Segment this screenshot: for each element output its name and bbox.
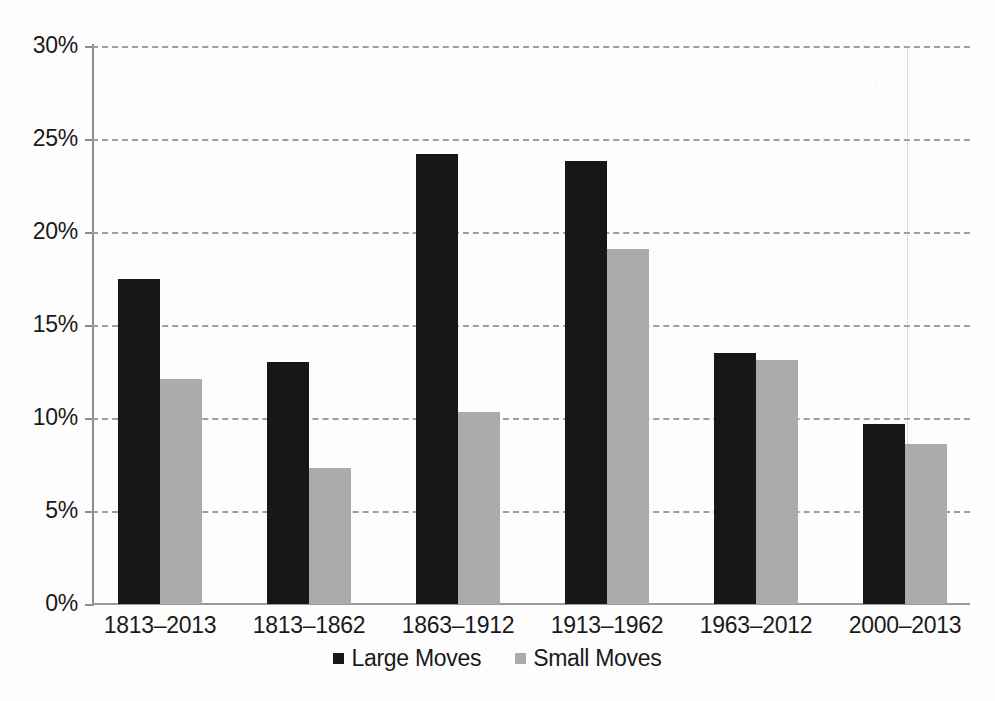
y-axis-tick [85,232,92,234]
bar-large-moves [416,154,458,604]
y-axis-tick [85,46,92,48]
y-axis-tick-label: 30% [0,32,78,59]
bar-small-moves [160,379,202,604]
bar-large-moves [267,362,309,604]
y-axis-tick-label: 25% [0,125,78,152]
gridline [92,418,970,420]
gridline [92,511,970,513]
legend-item: Small Moves [515,645,661,672]
gridline [92,46,970,48]
bar-small-moves [607,249,649,604]
bar-small-moves [756,360,798,604]
chart-legend: Large MovesSmall Moves [0,645,995,672]
legend-label: Large Moves [351,645,481,672]
y-axis-tick-label: 10% [0,404,78,431]
bar-large-moves [714,353,756,604]
bar-group [416,46,500,604]
bar-group [267,46,351,604]
legend-swatch-large-moves-icon [333,653,344,664]
bar-small-moves [458,412,500,604]
y-axis-tick-label: 20% [0,218,78,245]
plot-area [92,46,970,604]
bar-large-moves [118,279,160,605]
chart-figure: 30%25%20%15%10%5%0% 1813–20131813–186218… [0,0,995,701]
y-axis-tick [85,604,92,606]
legend-swatch-small-moves-icon [515,653,526,664]
y-axis-tick-label: 15% [0,311,78,338]
bar-group [118,46,202,604]
gridline [92,232,970,234]
legend-label: Small Moves [533,645,661,672]
y-axis-tick-label: 0% [0,590,78,617]
y-axis-tick-label: 5% [0,497,78,524]
y-axis-tick [85,139,92,141]
bar-large-moves [565,161,607,604]
gridline [92,325,970,327]
legend-item: Large Moves [333,645,481,672]
bar-group [714,46,798,604]
vertical-rule [907,46,909,604]
y-axis-tick [85,325,92,327]
y-axis-tick [85,418,92,420]
bar-large-moves [863,424,905,604]
gridline [92,139,970,141]
bar-group [565,46,649,604]
bar-small-moves [309,468,351,604]
bar-group [863,46,947,604]
bar-small-moves [905,444,947,604]
y-axis-tick [85,511,92,513]
x-axis-tick-label: 2000–2013 [815,612,995,639]
